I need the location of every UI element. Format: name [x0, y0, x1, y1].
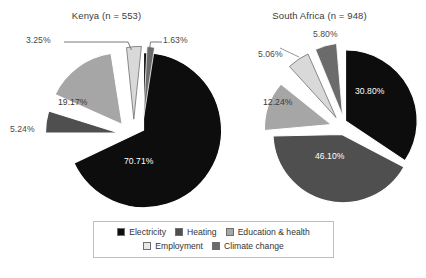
legend-label-employment: Employment — [155, 241, 203, 252]
legend-swatch-electricity — [117, 228, 125, 236]
pct-label-kenya-employment: 3.25% — [26, 35, 51, 45]
legend-item-heating[interactable]: Heating — [175, 227, 217, 238]
legend-item-electricity[interactable]: Electricity — [117, 227, 166, 238]
legend-label-heating: Heating — [187, 227, 217, 238]
pct-label-sa-education-health: 12.24% — [263, 97, 292, 107]
pie-south-africa — [264, 44, 417, 203]
pct-label-sa-climate-change: 5.80% — [313, 29, 338, 39]
pct-label-sa-heating: 46.10% — [315, 151, 344, 161]
legend-swatch-heating — [175, 228, 183, 236]
pct-label-kenya-electricity: 70.71% — [124, 156, 153, 166]
legend-swatch-climate-change — [212, 242, 220, 250]
legend-label-education-health: Education & health — [238, 227, 310, 238]
slice-kenya-employment[interactable] — [127, 46, 142, 119]
legend-row-2: Employment Climate change — [101, 241, 326, 252]
slice-kenya-education-health[interactable] — [55, 54, 122, 125]
pie-kenya — [45, 42, 221, 208]
pct-label-sa-electricity: 30.80% — [355, 86, 384, 96]
legend-row-1: Electricity Heating Education & health — [101, 227, 326, 238]
legend-swatch-employment — [143, 242, 151, 250]
legend-label-electricity: Electricity — [129, 227, 166, 238]
legend-item-education-health[interactable]: Education & health — [226, 227, 310, 238]
pct-label-kenya-climate-change: 1.63% — [163, 35, 188, 45]
legend-swatch-education-health — [226, 228, 234, 236]
pct-label-kenya-education-health: 19.17% — [58, 97, 87, 107]
legend-item-employment[interactable]: Employment — [143, 241, 203, 252]
legend: Electricity Heating Education & health E… — [93, 221, 334, 258]
pct-label-kenya-heating: 5.24% — [10, 124, 35, 134]
pct-label-sa-employment: 5.06% — [258, 49, 283, 59]
pie-chart-figure: Kenya (n = 553) South Africa (n = 948) — [0, 0, 426, 278]
legend-item-climate-change[interactable]: Climate change — [212, 241, 284, 252]
legend-label-climate-change: Climate change — [224, 241, 284, 252]
leader-line-kenya-employment — [64, 42, 132, 50]
